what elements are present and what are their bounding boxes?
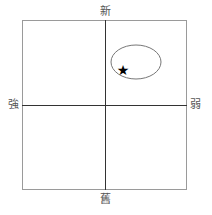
diagram-overlay: ★ — [0, 0, 212, 215]
star-icon: ★ — [117, 62, 130, 78]
